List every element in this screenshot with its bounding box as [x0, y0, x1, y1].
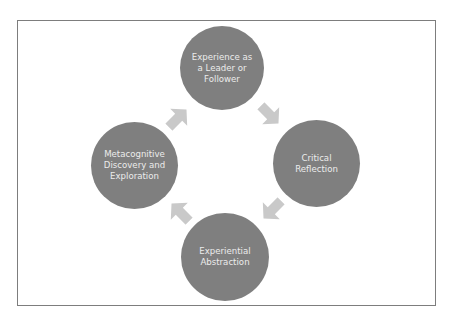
node-label: Experience as a Leader or Follower: [190, 52, 254, 85]
node-label: Critical Reflection: [295, 153, 338, 175]
node-experience-leader-follower: Experience as a Leader or Follower: [180, 26, 264, 110]
node-metacognitive-discovery: Metacognitive Discovery and Exploration: [91, 122, 178, 209]
node-experiential-abstraction: Experiential Abstraction: [181, 213, 269, 301]
node-label: Experiential Abstraction: [199, 246, 251, 268]
node-critical-reflection: Critical Reflection: [273, 120, 360, 207]
node-label: Metacognitive Discovery and Exploration: [101, 149, 168, 182]
